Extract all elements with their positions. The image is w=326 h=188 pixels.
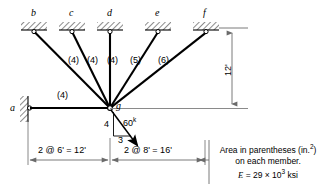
joint-label-a: a xyxy=(10,103,15,113)
load-magnitude-value: 60 xyxy=(123,118,133,128)
member-b-g xyxy=(35,33,109,107)
span-dimensions xyxy=(28,120,205,165)
support-a xyxy=(20,96,32,122)
note-divider xyxy=(199,140,209,184)
load-magnitude-label: 60k xyxy=(123,117,136,128)
load-magnitude-unit: k xyxy=(133,116,136,123)
support-d xyxy=(97,22,123,34)
support-e xyxy=(145,22,171,34)
note-line-member: on each member. xyxy=(212,156,324,167)
note-line-area: Area in parentheses (in.2) xyxy=(212,143,324,156)
truss-diagram-figure: b c d e f a g (4) (4) (4) (4) (5) (6) 60… xyxy=(0,0,326,188)
joint-label-d: d xyxy=(107,8,112,18)
height-dimension-label: 12' xyxy=(224,64,233,76)
support-b xyxy=(21,22,47,34)
load-slope-horizontal-label: 3 xyxy=(118,136,123,145)
area-label-bg: (4) xyxy=(68,56,79,65)
member-c-g xyxy=(73,33,110,107)
right-span-dimension-label: 2 @ 8' = 16' xyxy=(124,146,172,155)
area-label-cg: (4) xyxy=(87,56,98,65)
load-slope-vertical-label: 4 xyxy=(104,120,109,129)
member-e-g xyxy=(111,33,158,107)
area-label-eg: (5) xyxy=(130,56,141,65)
area-label-fg: (6) xyxy=(158,56,169,65)
area-label-ag: (4) xyxy=(57,91,68,100)
member-f-g xyxy=(111,33,205,107)
joint-label-c: c xyxy=(69,8,73,18)
joint-label-e: e xyxy=(155,8,159,18)
support-c xyxy=(59,22,85,34)
joint-label-f: f xyxy=(203,8,206,18)
area-label-dg: (4) xyxy=(107,56,118,65)
joint-label-g: g xyxy=(116,101,121,111)
left-span-dimension-label: 2 @ 6' = 12' xyxy=(38,146,86,155)
figure-note: Area in parentheses (in.2) on each membe… xyxy=(212,143,324,181)
note-line-modulus: E = 29 × 103 ksi xyxy=(212,168,324,181)
joint-label-b: b xyxy=(31,8,36,18)
support-f xyxy=(193,22,219,34)
